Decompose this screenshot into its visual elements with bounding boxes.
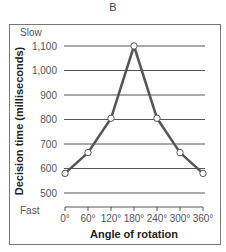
y-tick-label: 500 [40, 188, 57, 199]
fast-label: Fast [20, 205, 40, 216]
line-chart: 5006007008009001,0001,100SlowFast0°60°12… [0, 0, 226, 252]
y-tick-label: 900 [40, 90, 57, 101]
y-tick-label: 1,100 [32, 41, 57, 52]
y-tick-label: 1,000 [32, 65, 57, 76]
x-tick-label: 360° [193, 213, 214, 224]
x-tick-label: 180° [124, 213, 145, 224]
data-point-marker [62, 170, 68, 176]
y-tick-label: 700 [40, 139, 57, 150]
x-tick-label: 300° [170, 213, 191, 224]
x-axis-title: Angle of rotation [90, 228, 178, 240]
x-tick-label: 240° [147, 213, 168, 224]
y-axis-title: Decision time (milliseconds) [13, 46, 25, 195]
x-tick-label: 0° [60, 213, 70, 224]
data-point-marker [108, 115, 114, 121]
y-tick-label: 800 [40, 114, 57, 125]
data-point-marker [131, 43, 137, 49]
slow-label: Slow [20, 27, 42, 38]
data-point-marker [200, 170, 206, 176]
y-tick-label: 600 [40, 163, 57, 174]
data-point-marker [177, 149, 183, 155]
x-tick-label: 120° [101, 213, 122, 224]
x-tick-label: 60° [80, 213, 95, 224]
data-point-marker [85, 149, 91, 155]
data-point-marker [154, 115, 160, 121]
